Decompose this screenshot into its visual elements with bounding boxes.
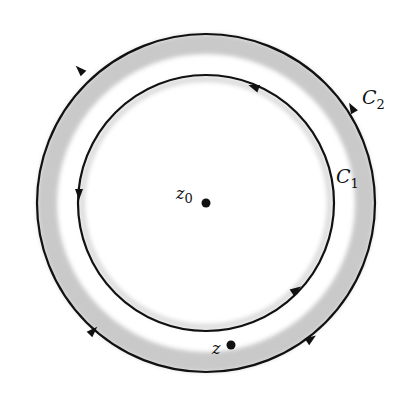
c2-arrow-top-left-icon [73, 63, 86, 76]
point-z [227, 341, 236, 350]
label-c2: C2 [362, 86, 385, 112]
label-z0: z0 [175, 184, 193, 206]
point-z0 [202, 199, 211, 208]
annulus-contour-diagram: z0 z C1 C2 [0, 0, 419, 403]
label-z: z [211, 339, 221, 358]
